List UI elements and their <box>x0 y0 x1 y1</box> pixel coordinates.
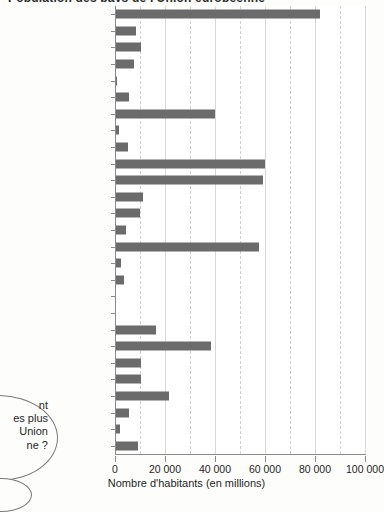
bar-row[interactable]: Grande-Bretagne <box>115 172 365 189</box>
bar-row[interactable]: Espagne <box>115 106 365 123</box>
bar[interactable] <box>115 209 140 218</box>
y-axis-line <box>115 6 116 454</box>
bar[interactable] <box>115 408 129 417</box>
bar[interactable] <box>115 109 215 118</box>
bar-row[interactable]: Finlande <box>115 139 365 156</box>
bar-row[interactable]: Pays-Bas <box>115 321 365 338</box>
speech-bubble-text: nt es plus Union ne ? <box>0 399 54 452</box>
bar[interactable] <box>115 325 156 334</box>
bar[interactable] <box>115 10 320 19</box>
x-axis-tick-label: 0 <box>112 463 118 475</box>
bar-row[interactable]: Danemark <box>115 89 365 106</box>
x-axis-title: Nombre d'habitants (en millions) <box>0 477 373 489</box>
x-axis-tick-label: 40 000 <box>199 463 231 475</box>
bar-row[interactable]: Roumanie <box>115 388 365 405</box>
x-axis-tick <box>165 456 166 462</box>
bar-row[interactable]: Slovaquie <box>115 404 365 421</box>
bar-row[interactable]: Portugal <box>115 354 365 371</box>
x-axis-tick-label: 80 000 <box>299 463 331 475</box>
bar-row[interactable]: Lettonie <box>115 255 365 272</box>
bar-row[interactable]: Estonie <box>115 122 365 139</box>
bar[interactable] <box>115 342 211 351</box>
x-axis-tick-label: 60 000 <box>249 463 281 475</box>
bar[interactable] <box>115 441 138 450</box>
bar-row[interactable]: Irlande <box>115 222 365 239</box>
bar-row[interactable]: Bulgarie <box>115 56 365 73</box>
bar-row[interactable]: Chypre <box>115 72 365 89</box>
bar-row[interactable]: Luxembourg <box>115 288 365 305</box>
x-axis-tick <box>265 456 266 462</box>
bar-row[interactable]: Allemagne <box>115 6 365 23</box>
bar[interactable] <box>115 242 259 251</box>
x-axis-tick-label: 100 000 <box>346 463 384 475</box>
bar[interactable] <box>115 43 141 52</box>
bar-row[interactable]: France <box>115 155 365 172</box>
x-axis-tick <box>115 456 116 462</box>
x-axis-tick <box>315 456 316 462</box>
bar-row[interactable]: Belgique <box>115 39 365 56</box>
bar[interactable] <box>115 226 126 235</box>
bar-row[interactable]: Lituanie <box>115 272 365 289</box>
x-axis-line <box>115 454 366 455</box>
x-axis-tick <box>365 456 366 462</box>
bar[interactable] <box>115 391 169 400</box>
bar[interactable] <box>115 375 141 384</box>
bar[interactable] <box>115 60 134 69</box>
bar-row[interactable]: Grèce <box>115 189 365 206</box>
bar-row[interactable]: Pologne <box>115 338 365 355</box>
bar[interactable] <box>115 143 128 152</box>
bar[interactable] <box>115 93 129 102</box>
bar[interactable] <box>115 176 263 185</box>
bar-row[interactable]: Autriche <box>115 23 365 40</box>
chart-title-cropped: Population des pays de l'Union européenn… <box>0 0 373 2</box>
bar[interactable] <box>115 192 143 201</box>
bar-row[interactable]: République tchèque <box>115 371 365 388</box>
bar[interactable] <box>115 275 124 284</box>
bar-row[interactable]: Malte <box>115 305 365 322</box>
bar[interactable] <box>115 26 136 35</box>
bar-row[interactable]: Hongrie <box>115 205 365 222</box>
bar-rows: AllemagneAutricheBelgiqueBulgarieChypreD… <box>115 6 365 454</box>
bar[interactable] <box>115 159 265 168</box>
bar-row[interactable]: Italie <box>115 238 365 255</box>
x-axis-tick <box>215 456 216 462</box>
bar-row[interactable]: Slovénie <box>115 421 365 438</box>
gridline-major <box>365 6 366 454</box>
bar[interactable] <box>115 358 141 367</box>
x-axis-tick-label: 20 000 <box>149 463 181 475</box>
bar-row[interactable]: Suède <box>115 437 365 454</box>
plot-area: AllemagneAutricheBelgiqueBulgarieChypreD… <box>115 6 365 454</box>
